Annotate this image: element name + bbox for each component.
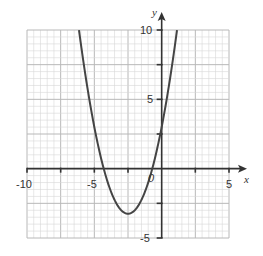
x-tick-label-neg10: -10 [16,178,32,190]
axes [27,12,247,238]
x-tick-label-5: 5 [226,178,232,190]
x-tick-label-neg5: -5 [87,178,97,190]
origin-label: 0 [148,172,155,184]
parabola-chart: -10 -5 0 5 10 5 -5 x y [0,0,263,256]
grid [27,30,229,238]
y-tick-label-5: 5 [147,93,153,105]
y-axis-label: y [151,6,157,18]
x-axis-label: x [243,173,249,185]
y-tick-label-10: 10 [140,24,152,36]
y-tick-label-neg5: -5 [140,232,150,244]
